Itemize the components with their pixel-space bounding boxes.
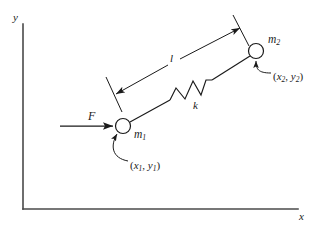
dimension-arrow-left-segment (116, 65, 168, 94)
coordinate-leader-group (113, 61, 271, 161)
mass-label-m1-subscript: 1 (142, 133, 146, 142)
mass-label-m2-subscript: 2 (276, 38, 280, 47)
coord-m1-close: ) (156, 159, 160, 171)
mass-label-m2: m2 (268, 34, 280, 47)
rod-left-segment (130, 100, 170, 122)
coord-m2-close: ) (299, 70, 303, 82)
dimension-line-group (106, 15, 249, 112)
spring-coil-zigzag (170, 80, 212, 100)
extension-line-left (106, 77, 122, 112)
leader-arrow-m1-coords (113, 134, 128, 161)
mass-circle-m1 (116, 119, 131, 134)
leader-arrow-m2-coords (256, 61, 271, 73)
mass-label-m1: m1 (134, 129, 146, 142)
diagram-canvas (0, 0, 314, 229)
rod-and-spring-group (130, 56, 250, 122)
y-axis-label: y (13, 12, 18, 23)
coordinate-label-m1: (x1, y1) (130, 160, 160, 173)
force-label-F: F (88, 110, 95, 122)
spring-constant-label-k: k (193, 100, 198, 111)
length-label-l: l (170, 53, 173, 64)
mass-circle-m2 (249, 44, 264, 59)
physics-diagram-figure: y x F l k m1 m2 (x1, y1) (x2, y2) (0, 0, 314, 229)
dimension-arrow-right-segment (180, 28, 240, 59)
coordinate-label-m2: (x2, y2) (273, 71, 303, 84)
rod-right-segment (212, 56, 250, 80)
x-axis-label: x (299, 211, 304, 222)
